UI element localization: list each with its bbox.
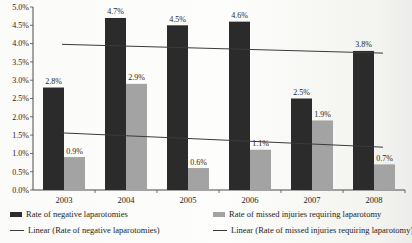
y-axis-tick-label: 0.5% [12,168,29,177]
data-label-missed-2004: 2.9% [128,73,145,82]
y-axis-tick-label: 5.0% [12,3,29,12]
y-axis-tick-label: 2.0% [12,113,29,122]
data-label-missed-2008: 0.7% [376,154,393,163]
bar-negative-2006 [229,22,250,190]
bar-negative-2008 [353,51,374,190]
y-axis-tick-label: 4.5% [12,21,29,30]
y-axis-tick-label: 1.0% [12,149,29,158]
x-axis-category-label: 2007 [304,195,321,205]
data-label-negative-2003: 2.8% [45,77,62,86]
legend-item: Rate of negative laparotomies [10,210,213,219]
chart-page: 0.0%0.5%1.0%1.5%2.0%2.5%3.0%3.5%4.0%4.5%… [0,0,412,243]
bar-negative-2005 [167,25,188,190]
legend-line-swatch-icon [213,230,227,231]
x-axis-category-label: 2004 [118,195,136,205]
legend-item: Rate of missed injuries requiring laparo… [213,210,412,219]
data-label-missed-2003: 0.9% [66,147,83,156]
legend-item-label: Rate of missed injuries requiring laparo… [229,210,381,219]
y-axis-tick-label: 3.5% [12,58,29,67]
legend-item: Linear (Rate of negative laparotomies) [10,226,213,235]
legend-bar-swatch-icon [10,212,22,217]
legend-bar-swatch-icon [213,212,225,217]
legend-item-label: Linear (Rate of negative laparotomies) [28,226,160,235]
x-axis-category-label: 2006 [242,195,259,205]
data-label-missed-2007: 1.9% [314,110,331,119]
chart-legend: Rate of negative laparotomiesRate of mis… [10,210,408,235]
data-label-negative-2007: 2.5% [293,88,310,97]
y-axis-tick-label: 0.0% [12,186,29,195]
legend-item-label: Linear (Rate of missed injuries requirin… [231,226,412,235]
bar-missed-2008 [374,164,395,190]
y-axis-tick-label: 2.5% [12,94,29,103]
legend-item: Linear (Rate of missed injuries requirin… [213,226,412,235]
bar-negative-2004 [105,18,126,190]
data-label-negative-2005: 4.5% [169,15,186,24]
bar-missed-2005 [188,168,209,190]
bar-negative-2003 [43,88,64,190]
bar-missed-2003 [64,157,85,190]
data-label-negative-2006: 4.6% [231,11,248,20]
legend-line-swatch-icon [10,230,24,231]
data-label-negative-2008: 3.8% [355,40,372,49]
x-axis-category-label: 2005 [180,195,197,205]
y-axis-tick-label: 1.5% [12,131,29,140]
bar-missed-2007 [312,120,333,190]
x-axis-category-label: 2003 [56,195,73,205]
data-label-negative-2004: 4.7% [107,7,124,16]
y-axis-tick-label: 4.0% [12,39,29,48]
bar-missed-2006 [250,150,271,190]
bar-chart: 0.0%0.5%1.0%1.5%2.0%2.5%3.0%3.5%4.0%4.5%… [0,0,412,210]
data-label-missed-2006: 1.1% [252,139,269,148]
legend-item-label: Rate of negative laparotomies [26,210,128,219]
y-axis-tick-label: 3.0% [12,76,29,85]
data-label-missed-2005: 0.6% [190,158,207,167]
x-axis-category-label: 2008 [366,195,383,205]
